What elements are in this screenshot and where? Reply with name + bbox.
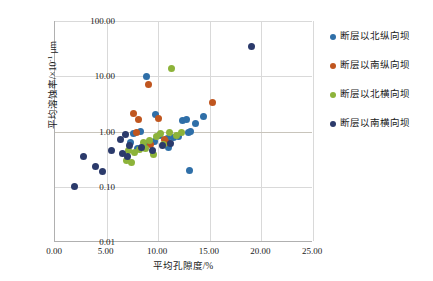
data-point [209, 99, 216, 106]
data-point [124, 153, 131, 160]
data-point [92, 163, 99, 170]
legend-item-label: 断层以北横向坝 [340, 89, 410, 100]
chart-legend: 断层以北纵向坝断层以南纵向坝断层以北横向坝断层以南横向坝 [330, 22, 433, 138]
y-axis-title: 平均溶蚀率/×10-1 μm [45, 25, 59, 145]
data-point [192, 120, 199, 127]
legend-item[interactable]: 断层以南横向坝 [330, 109, 433, 138]
y-axis-tick-label: 10.00 [55, 72, 115, 81]
data-point [99, 168, 106, 175]
data-point [122, 131, 129, 138]
data-point [248, 43, 255, 50]
legend-marker-icon [330, 121, 336, 127]
data-point [155, 115, 162, 122]
data-point [133, 129, 140, 136]
legend-item-label: 断层以北纵向坝 [340, 31, 410, 42]
legend-item[interactable]: 断层以南纵向坝 [330, 51, 433, 80]
data-point [167, 140, 174, 147]
scatter-chart: 0.010.101.0010.00100.00 0.005.0010.0015.… [0, 0, 433, 281]
x-axis-tick-label: 20.00 [236, 247, 284, 256]
legend-marker-icon [330, 63, 336, 69]
x-axis-tick-label: 0.00 [30, 247, 78, 256]
data-point [146, 137, 153, 144]
x-axis-tick-label: 10.00 [133, 247, 181, 256]
legend-item-label: 断层以南横向坝 [340, 118, 410, 129]
data-point [80, 153, 87, 160]
gridline-vertical [313, 21, 314, 241]
legend-marker-icon [330, 92, 336, 98]
data-point [138, 144, 145, 151]
data-point [131, 149, 138, 156]
x-axis-tick-label: 25.00 [288, 247, 336, 256]
y-axis-tick-label: 100.00 [55, 17, 115, 26]
x-axis-title: 平均孔隙度/% [54, 261, 312, 272]
data-point [108, 147, 115, 154]
data-point [135, 116, 142, 123]
data-point [200, 113, 207, 120]
legend-item-label: 断层以南纵向坝 [340, 60, 410, 71]
data-point [183, 116, 190, 123]
data-point [126, 142, 133, 149]
y-axis-title-exponent: -1 [46, 56, 54, 62]
data-point [128, 159, 135, 166]
legend-item[interactable]: 断层以北纵向坝 [330, 22, 433, 51]
x-axis-tick-label: 15.00 [185, 247, 233, 256]
data-point [168, 65, 175, 72]
x-axis-tick-label: 5.00 [82, 247, 130, 256]
y-axis-tick-label: 0.10 [55, 183, 115, 192]
y-axis-tick-label: 1.00 [55, 128, 115, 137]
data-point [186, 167, 193, 174]
data-point [178, 129, 185, 136]
data-point [149, 147, 156, 154]
legend-marker-icon [330, 34, 336, 40]
data-point [145, 81, 152, 88]
data-point [143, 73, 150, 80]
legend-item[interactable]: 断层以北横向坝 [330, 80, 433, 109]
data-point [185, 129, 192, 136]
data-point [166, 129, 173, 136]
data-point [153, 133, 160, 140]
